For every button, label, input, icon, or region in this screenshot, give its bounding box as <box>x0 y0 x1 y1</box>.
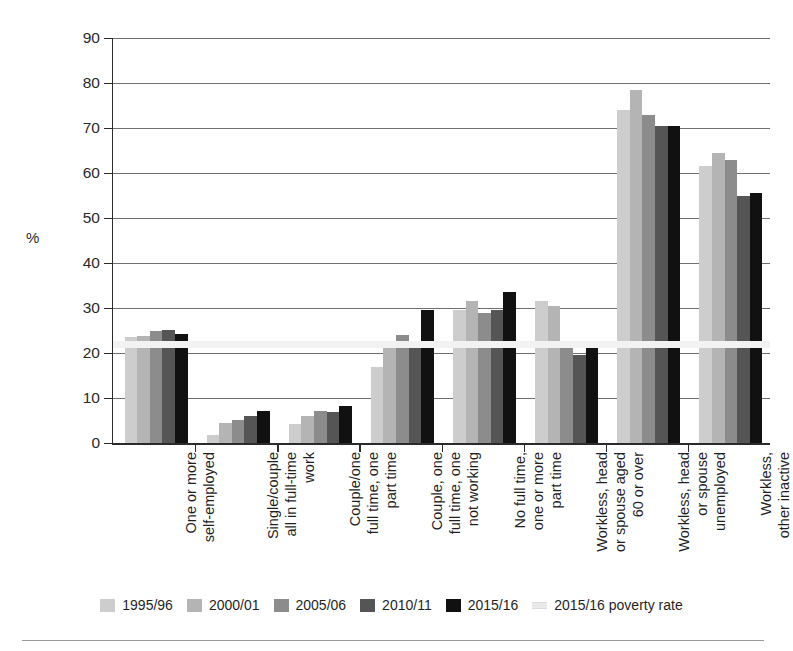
bar[interactable] <box>617 110 630 443</box>
bar[interactable] <box>453 310 466 443</box>
bar[interactable] <box>257 411 270 443</box>
bar[interactable] <box>478 313 491 444</box>
bar[interactable] <box>503 292 516 443</box>
bar-group <box>699 38 762 443</box>
y-tick-label: 70 <box>83 119 100 137</box>
x-tick-label: Workless, head or spouse unemployed <box>675 452 729 612</box>
bar-group <box>371 38 434 443</box>
bar[interactable] <box>314 411 327 443</box>
bar[interactable] <box>642 115 655 444</box>
bar[interactable] <box>655 126 668 443</box>
bar-group <box>453 38 516 443</box>
bar[interactable] <box>535 301 548 443</box>
legend-label: 1995/96 <box>122 597 173 613</box>
bar-group <box>535 38 598 443</box>
legend-item[interactable]: 2015/16 <box>446 597 519 613</box>
bar[interactable] <box>668 126 681 443</box>
y-tick-label: 80 <box>83 74 100 92</box>
bar[interactable] <box>466 301 479 443</box>
legend-swatch-icon <box>446 599 461 612</box>
y-axis-line <box>112 38 113 444</box>
bar[interactable] <box>421 310 434 443</box>
legend-label: 2005/06 <box>296 597 347 613</box>
legend-item[interactable]: 2010/11 <box>360 597 432 613</box>
y-tick-label: 20 <box>83 344 100 362</box>
bar[interactable] <box>737 196 750 444</box>
y-tick-mark <box>104 218 113 219</box>
legend-swatch-icon <box>360 599 375 612</box>
bar[interactable] <box>491 310 504 443</box>
y-tick-label: 90 <box>83 29 100 47</box>
bar[interactable] <box>371 367 384 444</box>
bar[interactable] <box>219 423 232 443</box>
x-tick-label: Couple, one full time, one not working <box>428 452 482 612</box>
bar[interactable] <box>750 193 763 443</box>
bar[interactable] <box>586 346 599 443</box>
legend-label: 2015/16 <box>468 597 519 613</box>
poverty-rate-reference-line <box>113 341 770 348</box>
legend-swatch-icon <box>187 599 202 612</box>
y-tick-mark <box>104 128 113 129</box>
x-tick-mark <box>606 443 607 452</box>
bar[interactable] <box>244 416 257 443</box>
x-tick-mark <box>359 443 360 452</box>
bar-group <box>617 38 680 443</box>
x-tick-label: Workless, head or spouse aged 60 or over <box>593 452 647 612</box>
bar[interactable] <box>383 346 396 443</box>
bar[interactable] <box>630 90 643 443</box>
bar-group <box>207 38 270 443</box>
legend-label: 2000/01 <box>209 597 260 613</box>
bar[interactable] <box>560 344 573 443</box>
legend-swatch-icon <box>274 599 289 612</box>
y-tick-mark <box>104 173 113 174</box>
x-tick-label: No full time, one or more part time <box>511 452 565 612</box>
bar[interactable] <box>573 355 586 443</box>
bar[interactable] <box>175 334 188 443</box>
x-tick-label: Workless, other inactive <box>757 452 793 612</box>
x-tick-mark <box>688 443 689 452</box>
x-axis-labels: One or more self-employedSingle/couple a… <box>113 452 770 612</box>
y-tick-label: 10 <box>83 389 100 407</box>
chart-legend: 1995/962000/012005/062010/112015/162015/… <box>0 597 783 613</box>
x-tick-label: One or more self-employed <box>182 452 218 612</box>
bar[interactable] <box>699 166 712 443</box>
legend-item[interactable]: 2015/16 poverty rate <box>532 597 682 613</box>
bar[interactable] <box>232 420 245 443</box>
x-tick-label: Couple/one full time, one part time <box>346 452 400 612</box>
plot-area: 0102030405060708090 <box>113 38 770 443</box>
y-tick-mark <box>104 353 113 354</box>
bar[interactable] <box>548 306 561 443</box>
x-tick-mark <box>195 443 196 452</box>
bar[interactable] <box>301 416 314 443</box>
legend-item[interactable]: 1995/96 <box>100 597 173 613</box>
bar[interactable] <box>125 337 138 443</box>
bar-group <box>125 38 188 443</box>
bar[interactable] <box>150 331 163 443</box>
bar[interactable] <box>207 435 220 443</box>
bar[interactable] <box>339 406 352 443</box>
legend-item[interactable]: 2005/06 <box>274 597 347 613</box>
y-tick-label: 40 <box>83 254 100 272</box>
y-tick-mark <box>104 263 113 264</box>
x-tick-mark <box>277 443 278 452</box>
legend-label: 2015/16 poverty rate <box>554 597 682 613</box>
bar[interactable] <box>409 342 422 443</box>
y-axis-label: % <box>26 229 40 246</box>
x-tick-mark <box>442 443 443 452</box>
x-tick-mark <box>524 443 525 452</box>
y-tick-mark <box>104 308 113 309</box>
bar[interactable] <box>396 335 409 443</box>
legend-line-icon <box>532 602 547 609</box>
y-tick-mark <box>104 398 113 399</box>
bar[interactable] <box>725 160 738 444</box>
bar[interactable] <box>712 153 725 443</box>
y-tick-label: 50 <box>83 209 100 227</box>
x-tick-label: Single/couple all in full-time work <box>264 452 318 612</box>
bar[interactable] <box>327 412 340 443</box>
bar-group <box>289 38 352 443</box>
bar[interactable] <box>137 336 150 443</box>
legend-item[interactable]: 2000/01 <box>187 597 260 613</box>
legend-swatch-icon <box>100 599 115 612</box>
bar[interactable] <box>289 424 302 443</box>
